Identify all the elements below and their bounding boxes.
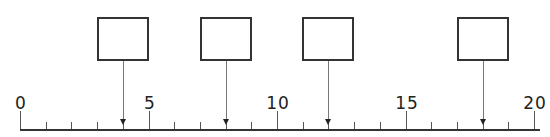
minor-tick — [251, 122, 252, 129]
tick-label: 10 — [266, 95, 290, 112]
major-tick — [149, 111, 150, 129]
tick-label: 20 — [523, 95, 547, 112]
minor-tick — [457, 122, 458, 129]
pointer-line — [483, 61, 484, 121]
major-tick — [406, 111, 407, 129]
axis-line — [20, 129, 540, 131]
answer-box[interactable] — [97, 17, 149, 61]
minor-tick — [354, 122, 355, 129]
major-tick — [534, 111, 535, 129]
minor-tick — [200, 122, 201, 129]
major-tick — [20, 111, 21, 129]
pointer-line — [123, 61, 124, 121]
answer-box[interactable] — [457, 17, 509, 61]
tick-label: 15 — [395, 95, 419, 112]
number-line-diagram: 05101520 — [0, 0, 550, 137]
minor-tick — [174, 122, 175, 129]
minor-tick — [303, 122, 304, 129]
minor-tick — [46, 122, 47, 129]
arrow-head-icon — [120, 119, 126, 125]
tick-label: 0 — [15, 95, 27, 112]
minor-tick — [97, 122, 98, 129]
pointer-line — [226, 61, 227, 121]
arrow-head-icon — [223, 119, 229, 125]
minor-tick — [71, 122, 72, 129]
arrow-head-icon — [480, 119, 486, 125]
minor-tick — [431, 122, 432, 129]
tick-label: 5 — [144, 95, 156, 112]
minor-tick — [508, 122, 509, 129]
arrow-head-icon — [325, 119, 331, 125]
answer-box[interactable] — [302, 17, 354, 61]
pointer-line — [328, 61, 329, 121]
minor-tick — [380, 122, 381, 129]
answer-box[interactable] — [200, 17, 252, 61]
major-tick — [277, 111, 278, 129]
